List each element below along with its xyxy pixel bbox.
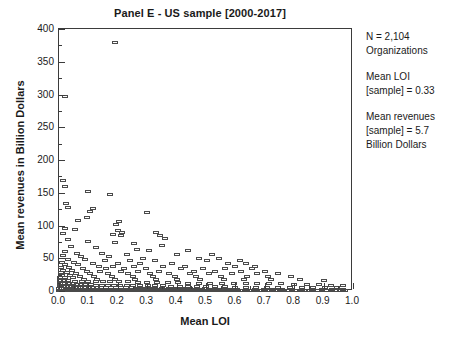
data-point	[160, 265, 166, 268]
y-axis-tick	[59, 160, 65, 161]
data-point	[275, 289, 281, 292]
data-point	[301, 289, 307, 292]
x-axis-tick	[177, 283, 178, 289]
sample-size-line-2: Organizations	[366, 44, 451, 58]
data-point	[96, 265, 102, 268]
data-point	[110, 233, 116, 236]
data-point	[284, 289, 290, 292]
mean-revenues-line-2: [sample] = 5.7	[366, 124, 451, 138]
x-axis-tick	[133, 286, 134, 289]
y-axis-tick	[59, 45, 62, 46]
data-point	[135, 270, 141, 273]
data-point	[178, 267, 184, 270]
data-point	[68, 245, 74, 248]
data-point	[249, 267, 255, 270]
data-point	[241, 278, 247, 281]
y-axis-tick	[59, 275, 62, 276]
data-point	[144, 211, 150, 214]
data-point	[152, 259, 158, 262]
data-point	[75, 263, 81, 266]
data-point	[60, 254, 66, 257]
data-point	[200, 267, 206, 270]
data-point	[338, 289, 344, 292]
data-point	[112, 241, 118, 244]
mean-loi-line-1: Mean LOI	[366, 70, 451, 84]
mean-revenues-line-3: Billion Dollars	[366, 138, 451, 152]
data-point	[267, 289, 273, 292]
x-axis-tick	[338, 286, 339, 289]
data-point	[82, 258, 88, 261]
data-point	[221, 289, 227, 292]
data-point	[97, 270, 103, 273]
x-axis-tick	[324, 283, 325, 289]
data-point	[185, 249, 191, 252]
y-axis-tick-label: 200	[2, 154, 54, 165]
data-point	[251, 289, 257, 292]
data-point	[216, 257, 222, 260]
data-point	[288, 275, 294, 278]
data-point	[310, 289, 316, 292]
data-point	[118, 234, 124, 237]
y-axis-tick-label: 100	[2, 219, 54, 230]
chart-title: Panel E - US sample [2000-2017]	[0, 7, 400, 19]
data-point	[238, 270, 244, 273]
x-axis-tick	[280, 286, 281, 289]
data-point	[243, 289, 249, 292]
x-axis-tick	[74, 286, 75, 289]
y-axis-tick-labels: 050100150200250300350400	[0, 28, 54, 290]
y-axis-tick	[59, 29, 65, 30]
data-point	[112, 41, 118, 44]
data-point	[143, 267, 149, 270]
plot-area	[58, 28, 352, 290]
x-axis-tick	[162, 286, 163, 289]
y-axis-tick	[59, 78, 62, 79]
data-point	[209, 253, 215, 256]
data-point	[340, 284, 346, 287]
y-axis-tick	[59, 176, 62, 177]
data-point	[225, 262, 231, 265]
y-axis-tick-label: 250	[2, 121, 54, 132]
data-point	[62, 250, 68, 253]
data-point	[65, 206, 71, 209]
y-axis-tick	[59, 95, 65, 96]
data-point	[93, 246, 99, 249]
data-point	[102, 259, 108, 262]
data-point	[297, 278, 303, 281]
x-axis-tick	[250, 286, 251, 289]
data-point	[74, 252, 80, 255]
x-axis-tick	[353, 283, 354, 289]
x-axis-tick	[221, 286, 222, 289]
y-axis-tick-label: 50	[2, 252, 54, 263]
data-point	[200, 289, 206, 292]
data-point	[235, 289, 241, 292]
data-point	[87, 210, 93, 213]
y-axis-label: Mean revenues in Billion Dollars	[14, 34, 26, 296]
data-point	[197, 278, 203, 281]
data-point	[72, 228, 78, 231]
annotation-sample-size: N = 2,104 Organizations	[366, 30, 451, 58]
data-point	[221, 278, 227, 281]
y-axis-tick	[59, 291, 65, 292]
data-point	[103, 267, 109, 270]
annotation-panel: N = 2,104 Organizations Mean LOI [sample…	[366, 30, 451, 164]
data-point	[131, 265, 137, 268]
x-axis-tick	[294, 283, 295, 289]
data-point	[127, 259, 133, 262]
data-point	[62, 227, 68, 230]
data-point	[119, 231, 125, 234]
data-point	[243, 262, 249, 265]
scatter-plot-figure: Panel E - US sample [2000-2017] 05010015…	[0, 0, 451, 341]
mean-loi-line-2: [sample] = 0.33	[366, 84, 451, 98]
data-point	[196, 257, 202, 260]
x-axis-tick	[59, 283, 60, 289]
data-point	[140, 257, 146, 260]
y-axis-tick-label: 350	[2, 55, 54, 66]
y-axis-tick	[59, 209, 62, 210]
y-axis-tick	[59, 144, 62, 145]
data-point	[110, 265, 116, 268]
data-point	[118, 270, 124, 273]
data-point	[60, 232, 66, 235]
data-point	[222, 267, 228, 270]
x-axis-tick	[147, 283, 148, 289]
data-point	[134, 248, 140, 251]
